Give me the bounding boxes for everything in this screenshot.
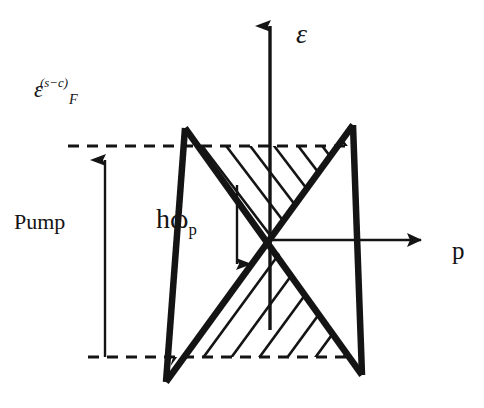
figure-canvas [0, 0, 484, 408]
dirac-cone-figure: ε p ε(s−c)F Pump hωp [0, 0, 484, 408]
fermi-level-subscript: F [69, 91, 78, 107]
cone-left-branch [166, 128, 185, 382]
photon-energy-label: hωp [156, 205, 197, 233]
fermi-level-superscript: (s−c) [40, 76, 68, 90]
energy-axis-label: ε [296, 20, 307, 48]
fermi-level-label: ε(s−c)F [34, 78, 80, 101]
momentum-axis-label: p [452, 238, 465, 263]
cone-right-branch [353, 125, 362, 375]
pump-label: Pump [14, 211, 65, 233]
photon-energy-base: hω [156, 203, 188, 234]
photon-energy-subscript: p [188, 220, 196, 239]
